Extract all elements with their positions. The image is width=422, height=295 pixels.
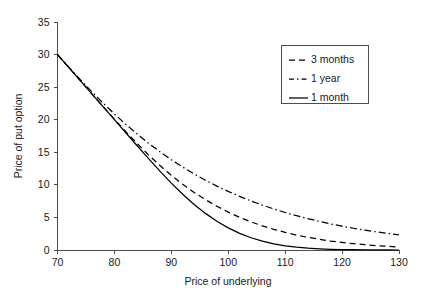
x-axis-title: Price of underlying: [185, 275, 272, 287]
x-tick-label: 70: [52, 256, 64, 268]
y-tick-label: 25: [38, 81, 50, 93]
legend-label-1-month: 1 month: [311, 91, 349, 103]
legend-label-1-year: 1 year: [311, 72, 341, 84]
y-axis-ticks: 05101520253035: [38, 16, 58, 256]
y-axis-title: Price of put option: [12, 94, 24, 179]
y-tick-label: 20: [38, 113, 50, 125]
y-tick-label: 10: [38, 178, 50, 190]
y-tick-label: 35: [38, 16, 50, 28]
y-tick-label: 0: [44, 244, 50, 256]
x-tick-label: 120: [333, 256, 351, 268]
x-tick-label: 80: [109, 256, 121, 268]
x-tick-label: 130: [390, 256, 408, 268]
chart-legend: 3 months1 year1 month: [282, 46, 369, 104]
x-tick-label: 100: [219, 256, 237, 268]
put-option-price-chart: 05101520253035 708090100110120130 Price …: [0, 0, 422, 295]
y-tick-label: 5: [44, 211, 50, 223]
legend-label-3-months: 3 months: [311, 53, 354, 65]
x-tick-label: 90: [165, 256, 177, 268]
y-tick-label: 15: [38, 146, 50, 158]
y-tick-label: 30: [38, 48, 50, 60]
x-tick-label: 110: [277, 256, 294, 268]
chart-figure: 05101520253035 708090100110120130 Price …: [0, 0, 422, 295]
x-axis-ticks: 708090100110120130: [52, 250, 408, 268]
